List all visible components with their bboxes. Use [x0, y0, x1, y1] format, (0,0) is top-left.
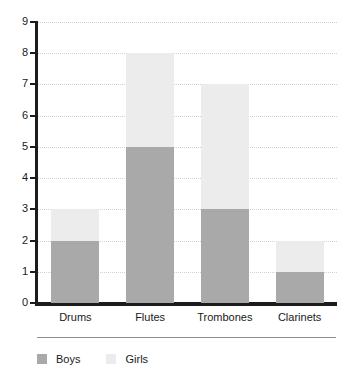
- y-tick-mark: [30, 146, 36, 148]
- bar-segment-boys: [51, 241, 99, 303]
- y-tick-label: 0: [12, 297, 28, 308]
- chart-legend: BoysGirls: [37, 352, 174, 366]
- y-tick-mark: [30, 21, 36, 23]
- y-tick-mark: [30, 177, 36, 179]
- bar-group: [126, 22, 174, 303]
- y-tick-label: 4: [12, 172, 28, 183]
- legend-label: Girls: [125, 354, 148, 365]
- bar-group: [201, 22, 249, 303]
- x-axis-label-drums: Drums: [38, 311, 113, 323]
- bar-segment-girls: [51, 209, 99, 240]
- bar-group: [51, 22, 99, 303]
- bar-segment-girls: [126, 53, 174, 147]
- y-tick-label: 7: [12, 78, 28, 89]
- y-tick-mark: [30, 52, 36, 54]
- y-tick-mark: [30, 208, 36, 210]
- x-axis-label-flutes: Flutes: [113, 311, 188, 323]
- bar-segment-boys: [126, 147, 174, 303]
- stacked-bar-chart: 0123456789 DrumsFlutesTrombonesClarinets…: [0, 0, 354, 378]
- legend-swatch-boys: [37, 354, 47, 364]
- y-tick-mark: [30, 271, 36, 273]
- y-tick-mark: [30, 83, 36, 85]
- y-tick-label: 1: [12, 266, 28, 277]
- y-tick-label: 5: [12, 141, 28, 152]
- x-axis-label-trombones: Trombones: [188, 311, 263, 323]
- y-tick-mark: [30, 240, 36, 242]
- y-tick-label: 8: [12, 47, 28, 58]
- legend-swatch-girls: [106, 354, 116, 364]
- legend-separator: [37, 337, 336, 338]
- y-tick-label: 2: [12, 235, 28, 246]
- x-axis-label-clarinets: Clarinets: [262, 311, 337, 323]
- y-tick-label: 3: [12, 203, 28, 214]
- legend-item-boys: Boys: [37, 354, 80, 365]
- bar-segment-girls: [201, 84, 249, 209]
- y-tick-label: 6: [12, 110, 28, 121]
- y-tick-mark: [30, 115, 36, 117]
- bar-group: [276, 22, 324, 303]
- y-tick-label: 9: [12, 16, 28, 27]
- plot-area: [38, 22, 337, 303]
- bars-layer: [38, 22, 337, 303]
- bar-segment-boys: [201, 209, 249, 303]
- legend-label: Boys: [56, 354, 80, 365]
- bar-segment-boys: [276, 272, 324, 303]
- legend-item-girls: Girls: [106, 354, 148, 365]
- bar-segment-girls: [276, 241, 324, 272]
- y-tick-mark: [30, 302, 36, 304]
